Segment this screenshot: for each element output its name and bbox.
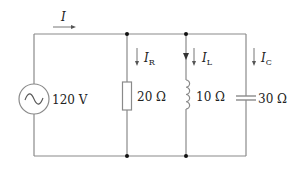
resistor-value: 20 Ω: [137, 90, 166, 104]
capacitor-value: 30 Ω: [258, 92, 287, 106]
inductor-value: 10 Ω: [196, 90, 225, 104]
il-arrow-icon: [192, 48, 196, 66]
resistor-icon: [123, 82, 132, 110]
capacitor-icon: [236, 96, 256, 100]
ic-label: IC: [260, 51, 272, 67]
source-voltage-label: 120 V: [52, 93, 88, 107]
inductor-current-arrowhead-icon: [183, 53, 189, 60]
il-label: IL: [201, 51, 213, 67]
node-dot-icon: [125, 32, 129, 36]
node-dot-icon: [125, 154, 129, 158]
ir-arrow-icon: [135, 48, 139, 66]
circuit-diagram: 120 V I 20 Ω IR 10 Ω IL 30 Ω IC: [0, 0, 297, 173]
ir-label: IR: [143, 51, 156, 67]
ic-arrow-icon: [252, 48, 256, 66]
total-current-label: I: [60, 10, 66, 24]
node-dot-icon: [184, 154, 188, 158]
current-arrow-icon: [53, 25, 76, 29]
inductor-icon: [186, 80, 190, 109]
node-dot-icon: [184, 32, 188, 36]
ac-source-icon: [19, 84, 49, 114]
